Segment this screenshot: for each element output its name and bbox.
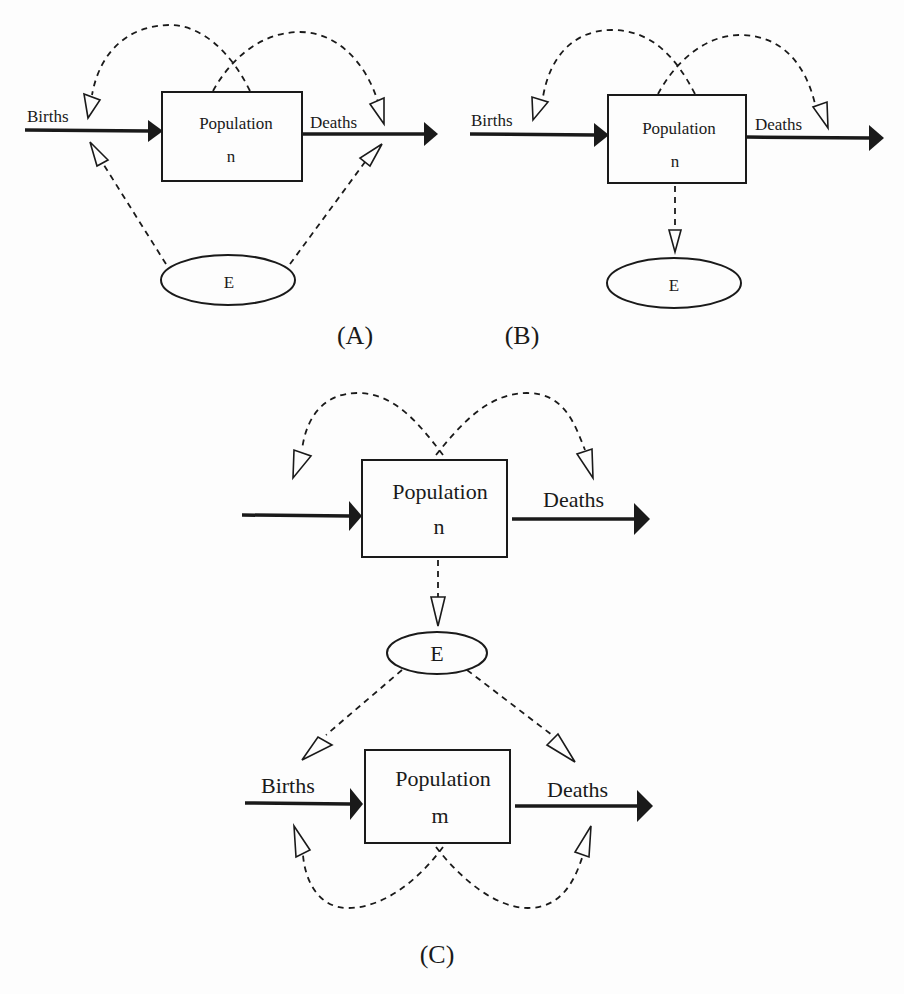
panel-c: Population n Deaths E Births Population … [242, 393, 653, 969]
environment-label: E [430, 641, 443, 666]
open-arrowhead-icon [532, 97, 548, 120]
env-to-births [326, 670, 402, 735]
feedback-to-deaths [436, 393, 585, 455]
arrowhead-icon [869, 125, 884, 151]
panel-caption: (A) [337, 321, 373, 350]
open-arrowhead-icon [669, 230, 681, 252]
arrowhead-icon [634, 503, 650, 535]
open-arrowhead-icon [370, 98, 384, 124]
open-arrowhead-icon [294, 826, 310, 857]
population-variable: n [227, 147, 236, 166]
population-variable: n [671, 152, 680, 171]
open-arrowhead-icon [302, 737, 332, 760]
arrowhead-icon [637, 790, 653, 822]
arrowhead-icon [350, 788, 363, 820]
open-arrowhead-icon [431, 597, 445, 626]
arrowhead-icon [148, 120, 163, 142]
population-label: Population [395, 766, 490, 791]
inflow-arrow [242, 515, 350, 516]
open-arrowhead-icon [84, 94, 100, 118]
open-arrowhead-icon [813, 102, 828, 128]
open-arrowhead-icon [575, 826, 591, 857]
population-n-stock-box [362, 460, 507, 557]
births-label: Births [261, 773, 315, 798]
population-variable: n [434, 514, 445, 539]
open-arrowhead-icon [90, 142, 108, 166]
open-arrowhead-icon [577, 449, 593, 478]
population-label: Population [199, 114, 273, 133]
births-flow-arrow [470, 134, 596, 135]
deaths-label: Deaths [310, 113, 357, 132]
arrowhead-icon [594, 123, 609, 147]
env-to-births [102, 162, 166, 264]
environment-label: E [224, 273, 234, 292]
feedback-to-deaths [436, 847, 583, 908]
deaths-flow-arrow [746, 137, 870, 138]
open-arrowhead-icon [293, 450, 311, 478]
environment-label: E [669, 276, 679, 295]
population-label: Population [392, 479, 487, 504]
feedback-to-births [92, 25, 250, 95]
births-flow-arrow [245, 803, 350, 804]
panel-caption: (C) [420, 940, 455, 969]
deaths-label: Deaths [547, 777, 608, 802]
arrowhead-icon [349, 501, 362, 531]
population-feedback-diagrams: Births Population n Deaths E (A) Births … [0, 0, 904, 994]
population-variable: m [431, 803, 448, 828]
feedback-to-births [303, 847, 443, 908]
population-m-stock-box [365, 750, 510, 843]
diagram-canvas: Births Population n Deaths E (A) Births … [0, 0, 904, 994]
births-label: Births [471, 111, 513, 130]
env-to-deaths [467, 670, 552, 735]
arrowhead-icon [424, 122, 438, 146]
feedback-to-inflow [302, 393, 443, 455]
deaths-label: Deaths [755, 115, 802, 134]
panel-b: Births Population n Deaths E (B) [470, 30, 884, 350]
births-flow-arrow [25, 130, 150, 131]
open-arrowhead-icon [360, 144, 382, 166]
population-label: Population [642, 119, 716, 138]
open-arrowhead-icon [547, 734, 575, 762]
population-stock-box [162, 92, 302, 181]
births-label: Births [27, 107, 69, 126]
feedback-to-births [543, 30, 695, 97]
deaths-label: Deaths [543, 487, 604, 512]
feedback-to-deaths [658, 35, 815, 104]
panel-caption: (B) [505, 321, 540, 350]
panel-a: Births Population n Deaths E (A) [25, 25, 438, 350]
